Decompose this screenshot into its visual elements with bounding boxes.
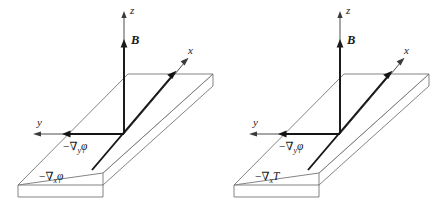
bfield-label: B [346,33,355,47]
grad-x-label: −∇xT [255,170,281,185]
grad-x-label: −∇xφ [39,170,64,185]
y-axis-label: y [36,116,42,128]
temperature-gradient-panel: z B x y −∇yφ −∇xT [216,0,433,208]
x-axis-label: x [187,44,193,56]
two-panel-slab-diagram: z B x y −∇yφ −∇xφ [0,0,433,208]
electric-potential-gradient-panel: z B x y −∇yφ −∇xφ [0,0,216,208]
slab-front-face [234,185,319,197]
x-axis-label: x [403,44,409,56]
bfield-label: B [130,33,139,47]
z-axis-label: z [345,4,351,16]
slab-front-face [18,185,103,197]
y-axis-label: y [252,116,258,128]
z-axis-label: z [129,4,135,16]
